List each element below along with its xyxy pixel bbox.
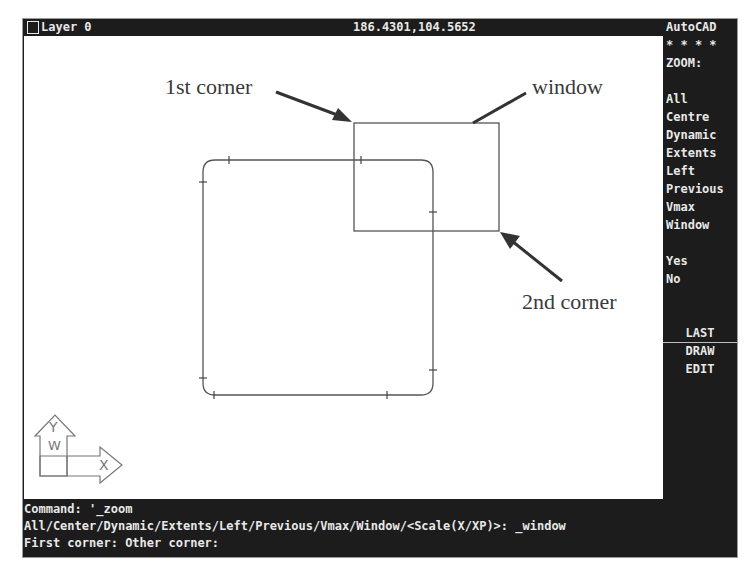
tick-marks [199, 156, 437, 399]
arrow-1st-corner-icon [332, 108, 352, 122]
menu-item-dynamic[interactable]: Dynamic [666, 128, 717, 142]
menu-item-window[interactable]: Window [666, 218, 709, 232]
ucs-w-label: W [48, 438, 61, 453]
menu-item-all[interactable]: All [666, 92, 688, 106]
layer-color-swatch[interactable] [27, 21, 39, 34]
autocad-screen: Layer 0 186.4301,104.5652 [22, 18, 738, 558]
menu-stars[interactable]: * * * * [666, 38, 717, 52]
current-layer[interactable]: Layer 0 [41, 20, 92, 34]
zoom-window-rect [354, 123, 499, 231]
cursor-coordinates: 186.4301,104.5652 [353, 20, 476, 34]
rounded-square-outline [203, 160, 433, 395]
annotation-1st-corner: 1st corner [165, 74, 252, 100]
menu-item-vmax[interactable]: Vmax [666, 200, 695, 214]
screen-menu: AutoCAD * * * * ZOOM: All Centre Dynamic… [663, 19, 737, 499]
annotation-2nd-corner: 2nd corner [522, 289, 617, 315]
menu-title[interactable]: AutoCAD [666, 20, 717, 34]
command-history-line: All/Center/Dynamic/Extents/Left/Previous… [24, 519, 566, 533]
ucs-x-label: X [99, 457, 109, 473]
menu-item-previous[interactable]: Previous [666, 182, 724, 196]
menu-item-no[interactable]: No [666, 272, 680, 286]
drawing-canvas [24, 36, 663, 499]
menu-item-left[interactable]: Left [666, 164, 695, 178]
annotation-window: window [532, 74, 603, 100]
menu-item-last[interactable]: LAST [663, 326, 737, 340]
menu-item-draw[interactable]: DRAW [663, 344, 737, 358]
menu-heading-zoom: ZOOM: [666, 56, 702, 70]
command-prompt[interactable]: First corner: Other corner: [24, 536, 219, 550]
menu-item-yes[interactable]: Yes [666, 254, 688, 268]
status-bar: Layer 0 186.4301,104.5652 [23, 19, 663, 36]
command-history-line: Command: '_zoom [24, 502, 132, 516]
command-area[interactable]: Command: '_zoom All/Center/Dynamic/Exten… [23, 499, 737, 557]
menu-item-edit[interactable]: EDIT [663, 362, 737, 376]
menu-divider [663, 342, 737, 343]
menu-item-centre[interactable]: Centre [666, 110, 709, 124]
ucs-y-label: Y [49, 419, 58, 435]
drawing-area[interactable]: 1st corner window 2nd corner Y W X [24, 36, 663, 499]
menu-item-extents[interactable]: Extents [666, 146, 717, 160]
